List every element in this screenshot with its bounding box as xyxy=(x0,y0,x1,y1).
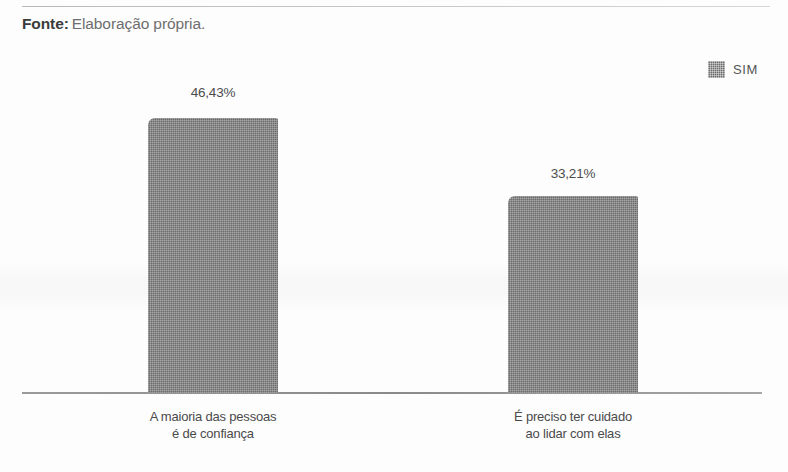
x-axis-line xyxy=(22,392,762,394)
bar-series-sim-category-1[interactable] xyxy=(508,196,638,393)
bar-value-label-1: 33,21% xyxy=(493,166,653,181)
category-label-1-line-2: ao lidar com elas xyxy=(458,425,688,442)
category-label-0-line-1: A maioria das pessoas xyxy=(98,408,328,425)
chart-page: Fonte:Elaboração própria. SIM 46,43% 33,… xyxy=(0,0,788,472)
category-label-1: É preciso ter cuidado ao lidar com elas xyxy=(458,408,688,442)
category-label-0-line-2: é de confiança xyxy=(98,425,328,442)
bar-series-sim-category-0[interactable] xyxy=(148,118,278,393)
bar-chart-plot: 46,43% 33,21% A maioria das pessoas é de… xyxy=(0,0,788,472)
bar-value-label-0: 46,43% xyxy=(133,85,293,100)
category-label-1-line-1: É preciso ter cuidado xyxy=(458,408,688,425)
category-label-0: A maioria das pessoas é de confiança xyxy=(98,408,328,442)
